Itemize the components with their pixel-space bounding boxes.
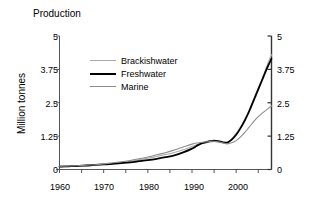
chart-figure: Production Million tonnes 5 3.75 2.5 1.2…	[0, 0, 319, 207]
series-line-freshwater	[60, 59, 272, 167]
plot-area	[0, 0, 319, 207]
series-line-brackishwater	[60, 55, 272, 167]
data-series	[60, 55, 272, 167]
axis-lines	[60, 36, 272, 170]
axis-ticks	[56, 36, 272, 173]
